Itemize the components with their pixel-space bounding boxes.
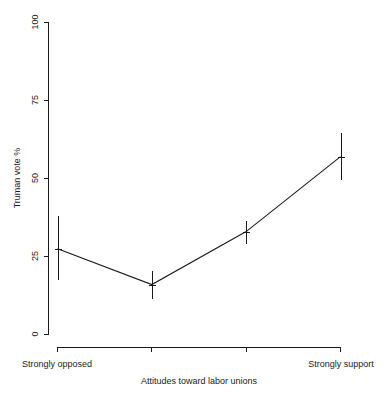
y-tick-label-75: 75 xyxy=(30,95,40,105)
line-chart-with-error-bars: 0 25 50 75 100 Truman vote % Strongly op… xyxy=(0,0,388,397)
x-category-label-left: Strongly opposed xyxy=(22,359,92,369)
y-tick-label-0: 0 xyxy=(30,331,40,336)
chart-background xyxy=(0,0,388,397)
y-tick-label-25: 25 xyxy=(30,251,40,261)
y-tick-label-50: 50 xyxy=(30,173,40,183)
y-axis-title: Truman vote % xyxy=(12,148,22,209)
y-tick-label-100: 100 xyxy=(30,14,40,29)
x-category-label-right: Strongly support xyxy=(308,359,374,369)
x-axis-title: Attitudes toward labor unions xyxy=(141,376,258,386)
chart-figure: 0 25 50 75 100 Truman vote % Strongly op… xyxy=(0,0,388,397)
